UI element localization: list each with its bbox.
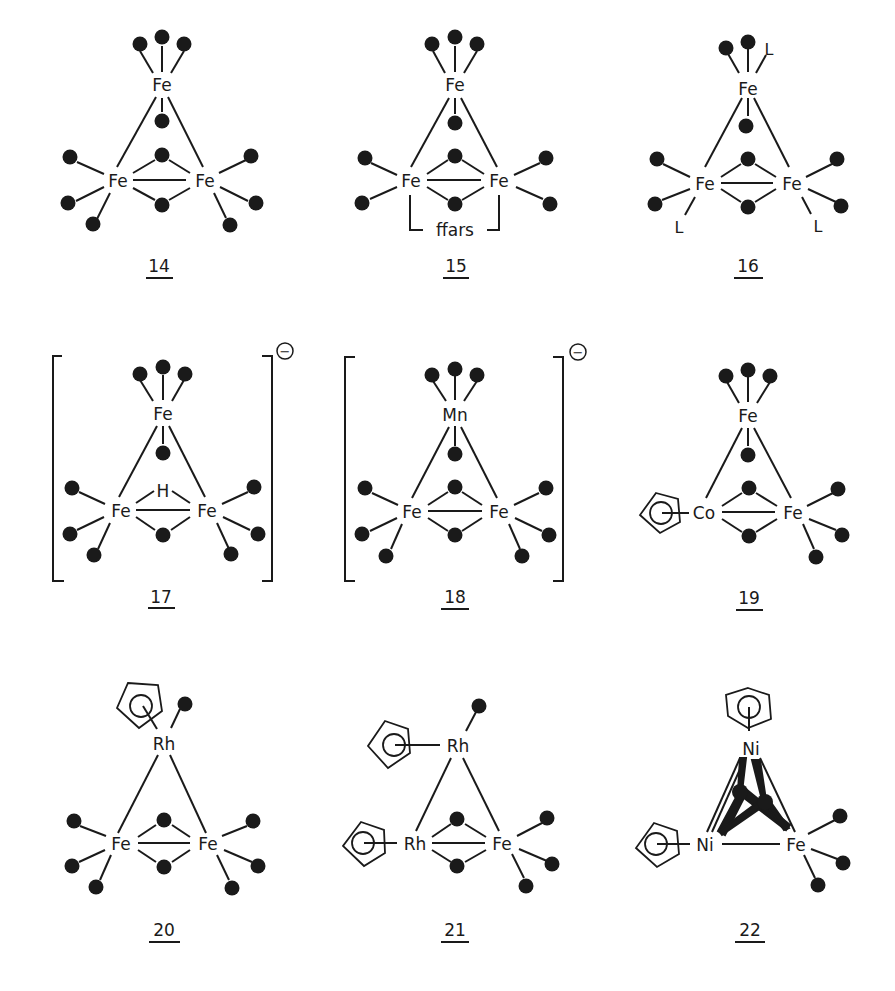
compound-label-15: 15: [445, 256, 467, 276]
chelate-ligand-ffars: ffars: [436, 220, 474, 240]
compound-label-18: 18: [444, 587, 466, 607]
atom-right-16: Fe: [782, 174, 801, 194]
atom-top-15: Fe: [445, 75, 464, 95]
atom-left-17: Fe: [111, 501, 130, 521]
compound-label-17: 17: [150, 587, 172, 607]
structure-figure: Fe Fe Fe 14 Fe Fe Fe ffars 15: [0, 0, 895, 991]
atom-right-21: Fe: [492, 834, 511, 854]
atom-top-16: Fe: [738, 79, 757, 99]
atom-right-20: Fe: [198, 834, 217, 854]
charge-sign-18: −: [573, 345, 584, 360]
atom-top-14: Fe: [152, 75, 171, 95]
structure-19: [640, 363, 850, 611]
structure-20: [65, 683, 266, 942]
atom-left-20: Fe: [111, 834, 130, 854]
compound-label-16: 16: [737, 256, 759, 276]
atom-left-15: Fe: [401, 171, 420, 191]
compound-label-21: 21: [444, 920, 466, 940]
atom-left-22: Ni: [696, 835, 713, 855]
structure-18: [345, 344, 586, 609]
atom-right-17: Fe: [197, 501, 216, 521]
atom-right-19: Fe: [783, 503, 802, 523]
atom-top-21: Rh: [447, 736, 470, 756]
atom-right-15: Fe: [489, 171, 508, 191]
atom-right-14: Fe: [195, 171, 214, 191]
cyclopentadienyl-ring-20: [117, 683, 162, 728]
atom-top-18: Mn: [442, 405, 467, 425]
structure-22: [636, 688, 851, 942]
structure-14: [61, 30, 264, 279]
atom-top-20: Rh: [153, 734, 176, 754]
ligand-L-top-16: L: [765, 40, 774, 59]
atom-top-17: Fe: [153, 404, 172, 424]
structure-17: [53, 343, 293, 608]
atom-left-16: Fe: [695, 174, 714, 194]
atom-top-19: Fe: [738, 406, 757, 426]
atom-left-14: Fe: [108, 171, 127, 191]
ligand-L-left-16: L: [675, 218, 684, 237]
atom-left-19: Co: [693, 503, 715, 523]
structure-15: [355, 30, 558, 279]
charge-sign-17: −: [280, 344, 291, 359]
compound-label-14: 14: [148, 256, 170, 276]
structure-16: [648, 35, 849, 279]
ligand-L-right-16: L: [814, 217, 823, 236]
atom-top-22: Ni: [742, 739, 759, 759]
atom-right-22: Fe: [786, 835, 805, 855]
atom-left-18: Fe: [402, 502, 421, 522]
atom-left-21: Rh: [404, 834, 427, 854]
compound-label-19: 19: [738, 588, 760, 608]
compound-label-22: 22: [739, 920, 761, 940]
atom-right-18: Fe: [489, 502, 508, 522]
compound-label-20: 20: [153, 920, 175, 940]
hydride-17: H: [157, 481, 170, 501]
